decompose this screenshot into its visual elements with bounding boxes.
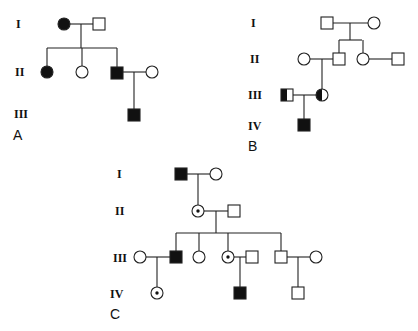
panel-label-b: B — [248, 138, 257, 154]
carrier-female-symbol — [192, 205, 204, 217]
unaffected-male-symbol — [246, 251, 258, 263]
unaffected-female-symbol — [146, 66, 158, 78]
affected-male-symbol — [170, 251, 182, 263]
generation-label-iii: III — [14, 107, 28, 121]
generation-label-ii: II — [15, 65, 25, 79]
unaffected-female-symbol — [193, 251, 205, 263]
generation-label-ii: II — [250, 52, 260, 66]
pedigree-b: I II III IV B — [248, 16, 404, 154]
unaffected-male-symbol — [275, 251, 287, 263]
affected-male-symbol — [128, 109, 140, 121]
generation-label-i: I — [16, 17, 21, 31]
unaffected-male-symbol — [333, 53, 345, 65]
unaffected-female-symbol — [368, 17, 380, 29]
affected-male-symbol — [234, 287, 246, 299]
unaffected-male-symbol — [228, 205, 240, 217]
carrier-female-symbol — [222, 251, 234, 263]
panel-label-c: C — [110, 306, 120, 322]
generation-label-iv: IV — [110, 287, 124, 301]
generation-label-i: I — [117, 167, 122, 181]
affected-female-symbol — [58, 18, 70, 30]
carrier-male-symbol — [281, 89, 293, 101]
unaffected-male-symbol — [392, 53, 404, 65]
unaffected-female-symbol — [310, 251, 322, 263]
unaffected-female-symbol — [298, 53, 310, 65]
affected-male-symbol — [111, 67, 123, 79]
affected-male-symbol — [298, 119, 310, 131]
generation-label-iii: III — [113, 251, 127, 265]
unaffected-female-symbol — [134, 251, 146, 263]
unaffected-male-symbol — [292, 287, 304, 299]
affected-male-symbol — [175, 168, 187, 180]
unaffected-female-symbol — [76, 66, 88, 78]
affected-female-symbol — [41, 66, 53, 78]
carrier-female-symbol — [151, 287, 163, 299]
unaffected-female-symbol — [357, 53, 369, 65]
generation-label-iv: IV — [248, 119, 262, 133]
generation-label-i: I — [251, 16, 256, 30]
pedigree-a: I II III A — [13, 17, 158, 143]
unaffected-female-symbol — [210, 168, 222, 180]
pedigree-c: I II III IV C — [110, 167, 322, 322]
carrier-female-symbol — [316, 89, 328, 101]
generation-label-ii: II — [115, 204, 125, 218]
unaffected-male-symbol — [321, 17, 333, 29]
generation-label-iii: III — [248, 88, 262, 102]
pedigree-figure: I II III A I II III IV B — [0, 0, 418, 331]
panel-label-a: A — [13, 127, 23, 143]
unaffected-male-symbol — [93, 18, 105, 30]
